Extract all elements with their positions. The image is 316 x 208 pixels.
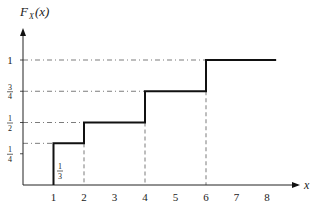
y-axis-title-sub: X — [28, 12, 35, 21]
x-tick-label: 1 — [51, 191, 57, 203]
y-tick-label-num: 1 — [8, 114, 12, 123]
cdf-step-line — [54, 60, 277, 185]
y-tick-label-den: 2 — [8, 124, 12, 133]
step-annotation: 1 3 — [57, 162, 63, 181]
tick-labels: 123456781412341 — [7, 54, 270, 203]
step-function — [54, 60, 277, 185]
x-axis-title: x — [303, 178, 310, 192]
y-axis-title-arg: (x) — [35, 4, 49, 19]
cdf-step-chart: 123456781412341 F X (x) x 1 3 — [0, 0, 316, 208]
x-axis-arrow-icon — [292, 182, 300, 188]
y-axis-title-F: F — [19, 4, 29, 19]
y-tick-label-den: 4 — [8, 92, 12, 101]
y-axis-arrow-icon — [20, 28, 26, 36]
x-tick-label: 2 — [81, 191, 87, 203]
y-axis-title: F X (x) — [19, 4, 49, 21]
annotation-num: 1 — [58, 162, 62, 171]
y-tick-label-num: 1 — [8, 145, 12, 154]
axes — [20, 28, 300, 188]
x-tick-label: 6 — [203, 191, 209, 203]
y-tick-label-num: 3 — [8, 83, 12, 92]
y-tick-label-den: 4 — [8, 155, 12, 164]
x-tick-label: 5 — [173, 191, 179, 203]
y-tick-label: 1 — [7, 54, 13, 66]
x-tick-label: 8 — [264, 191, 270, 203]
annotation-den: 3 — [58, 172, 62, 181]
x-tick-label: 4 — [142, 191, 148, 203]
x-tick-label: 7 — [234, 191, 240, 203]
x-tick-label: 3 — [112, 191, 118, 203]
